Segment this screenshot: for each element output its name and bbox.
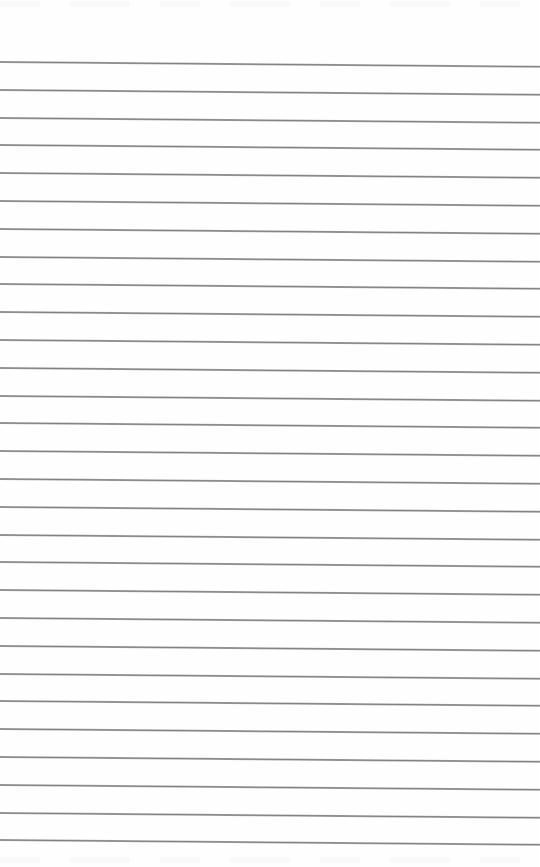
ruled-line — [0, 617, 540, 623]
ruled-line — [0, 283, 540, 289]
ruled-line — [0, 534, 540, 540]
ruled-line — [0, 478, 540, 484]
ruled-line — [0, 367, 540, 373]
ruled-line — [0, 673, 540, 679]
ruled-line — [0, 728, 540, 734]
ruled-line — [0, 228, 540, 234]
ruled-line — [0, 450, 540, 456]
ruled-line — [0, 311, 540, 317]
ruled-line — [0, 422, 540, 428]
ruled-line — [0, 200, 540, 206]
ruled-line — [0, 812, 540, 818]
ruled-line — [0, 256, 540, 262]
ruled-line — [0, 645, 540, 651]
ruled-line — [0, 839, 540, 845]
ruled-line — [0, 561, 540, 567]
ruled-line — [0, 784, 540, 790]
ruled-line — [0, 700, 540, 706]
ruled-line — [0, 339, 540, 345]
ruled-line — [0, 589, 540, 595]
bottom-edge-bleed-through — [0, 857, 538, 863]
ruled-line — [0, 89, 540, 95]
ruled-line — [0, 395, 540, 401]
ruled-line — [0, 172, 540, 178]
ruled-line — [0, 61, 540, 67]
top-edge-bleed-through — [0, 1, 538, 7]
ruled-line — [0, 144, 540, 150]
ruled-line — [0, 117, 540, 123]
ruled-line — [0, 506, 540, 512]
ruled-line — [0, 756, 540, 762]
